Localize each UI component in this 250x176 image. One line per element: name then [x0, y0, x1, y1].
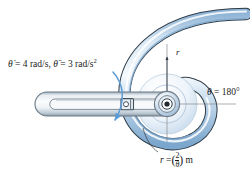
pivot-hub	[154, 91, 179, 116]
r-numerator: 2	[175, 152, 179, 160]
accel-units: rad/s	[75, 59, 93, 69]
theta-dot-symbol: θ̇	[8, 59, 13, 69]
theta-ddot-value: 3	[68, 59, 73, 69]
theta-angle-label: θ = 180°	[207, 88, 240, 98]
theta-value: 180°	[222, 87, 240, 97]
pin-block-hole	[124, 102, 129, 107]
pin-block	[121, 99, 134, 110]
rate-units: rad/s	[30, 59, 48, 69]
r-fraction: 2θ	[175, 152, 179, 169]
hub-center-dot	[164, 101, 169, 106]
theta-symbol: θ	[207, 87, 212, 97]
theta-dot-value: 4	[23, 59, 28, 69]
accel-units-exponent: 2	[94, 57, 97, 64]
r-units: m	[186, 155, 193, 165]
equals-2: =	[60, 59, 65, 69]
r-denominator: θ	[175, 160, 179, 169]
theta-ddot-symbol: θ̈	[53, 59, 58, 69]
slotted-arm	[35, 92, 171, 116]
r-symbol-eq: r	[160, 155, 164, 165]
equals-1: =	[15, 59, 20, 69]
comma: ,	[48, 59, 50, 69]
r-equation-label: r =(2θ) m	[160, 152, 193, 169]
equals-3: =	[214, 87, 219, 97]
angular-rates-label: θ̇ = 4 rad/s, θ̈ = 3 rad/s2	[8, 58, 97, 70]
r-axis-label: r	[176, 48, 180, 57]
paren-close: )	[179, 153, 183, 167]
